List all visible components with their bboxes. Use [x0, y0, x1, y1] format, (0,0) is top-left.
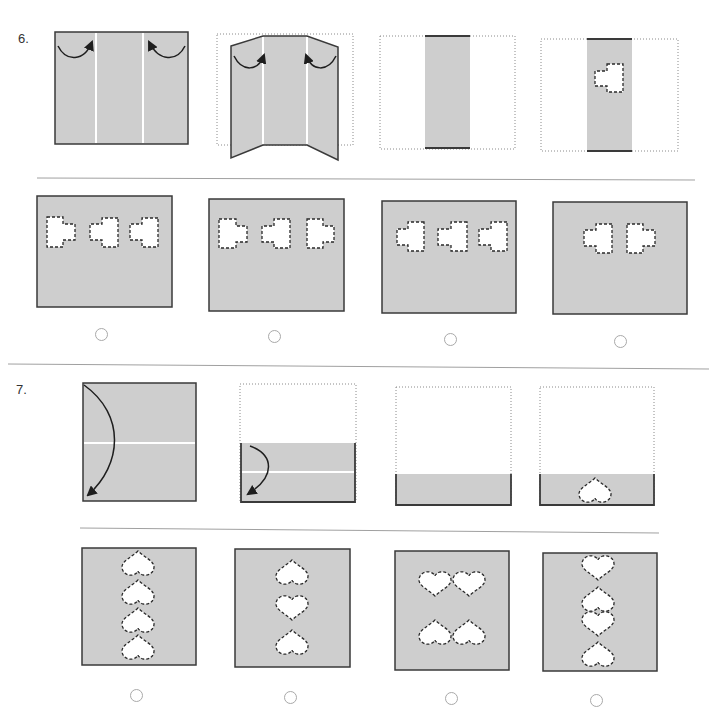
q7-step-2	[240, 384, 356, 502]
q7-step-1	[83, 383, 196, 501]
worksheet-figures	[0, 0, 714, 721]
q6-option-a	[37, 196, 172, 307]
q7-option-a-radio[interactable]	[130, 689, 143, 702]
worksheet-page: 6. 7.	[0, 0, 714, 721]
q7-option-b-radio[interactable]	[284, 691, 297, 704]
q7-option-d	[543, 553, 657, 671]
divider	[37, 178, 695, 180]
q6-option-b	[209, 199, 344, 311]
q6-step-4	[541, 39, 678, 151]
q6-option-d	[553, 202, 687, 314]
q7-step-3	[396, 387, 511, 505]
q7-option-d-radio[interactable]	[590, 694, 603, 707]
paper-folding	[231, 36, 338, 160]
q7-option-c-radio[interactable]	[445, 692, 458, 705]
q6-step-2	[217, 34, 353, 160]
q6-option-c-radio[interactable]	[444, 333, 457, 346]
q6-step-3	[380, 36, 515, 149]
question-number: 6.	[18, 31, 29, 46]
q7-step-4	[540, 387, 654, 505]
q6-option-c	[382, 201, 516, 313]
folded-strip	[425, 36, 470, 148]
paper-sheet	[55, 32, 188, 144]
q6-step-1	[55, 32, 188, 144]
q7-option-a	[82, 548, 196, 665]
q7-option-b	[235, 549, 350, 667]
divider	[80, 528, 659, 533]
q6-option-b-radio[interactable]	[268, 330, 281, 343]
q6-option-a-radio[interactable]	[95, 328, 108, 341]
q7-option-c	[395, 551, 509, 670]
divider	[8, 364, 709, 369]
q6-option-d-radio[interactable]	[614, 335, 627, 348]
question-number: 7.	[16, 382, 27, 397]
folded-strip	[587, 39, 632, 151]
